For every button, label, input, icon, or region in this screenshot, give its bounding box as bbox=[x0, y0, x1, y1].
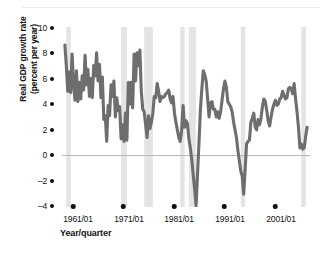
chart-svg bbox=[62, 27, 310, 207]
x-tick-label-1971: 1971/01 bbox=[114, 214, 143, 224]
x-tick-label-1991: 1991/01 bbox=[215, 214, 244, 224]
y-tick-dot bbox=[50, 204, 54, 208]
y-tick-4: 4 bbox=[20, 99, 54, 109]
y-tick-neg2: –2 bbox=[20, 176, 54, 186]
y-tick-2: 2 bbox=[20, 125, 54, 135]
x-tick-dot-1991 bbox=[222, 204, 227, 209]
y-tick-dot bbox=[50, 102, 54, 106]
chart-figure: Real GDP growth rate (percent per year) … bbox=[0, 0, 325, 253]
x-tick-dot-1961 bbox=[71, 204, 76, 209]
y-tick-8: 8 bbox=[20, 48, 54, 58]
y-tick-10: 10 bbox=[20, 23, 54, 33]
y-tick-dot bbox=[50, 179, 54, 183]
y-tick-dot bbox=[50, 77, 54, 81]
recession-band-6 bbox=[301, 27, 305, 207]
plot-area bbox=[62, 27, 310, 207]
y-tick-6: 6 bbox=[20, 74, 54, 84]
y-tick-dot bbox=[50, 128, 54, 132]
x-axis-title: Year/quarter bbox=[60, 228, 111, 238]
y-tick-neg4: –4 bbox=[20, 201, 54, 211]
x-tick-dot-1981 bbox=[172, 204, 177, 209]
y-tick-dot bbox=[50, 51, 54, 55]
x-tick-label-1981: 1981/01 bbox=[164, 214, 193, 224]
y-axis-title-line2: (percent per year) bbox=[29, 0, 40, 139]
x-tick-dot-1971 bbox=[121, 204, 126, 209]
gdp-growth-line bbox=[65, 45, 307, 206]
y-tick-0: 0 bbox=[20, 150, 54, 160]
y-axis-title-line1: Real GDP growth rate bbox=[18, 0, 29, 139]
y-tick-dot bbox=[50, 153, 54, 157]
x-tick-dot-2001 bbox=[273, 204, 278, 209]
top-rule-divider bbox=[22, 7, 320, 8]
y-axis-title: Real GDP growth rate (percent per year) bbox=[18, 0, 40, 139]
x-tick-label-1961: 1961/01 bbox=[63, 214, 92, 224]
y-tick-dot bbox=[50, 26, 54, 30]
x-tick-label-2001: 2001/01 bbox=[266, 214, 295, 224]
